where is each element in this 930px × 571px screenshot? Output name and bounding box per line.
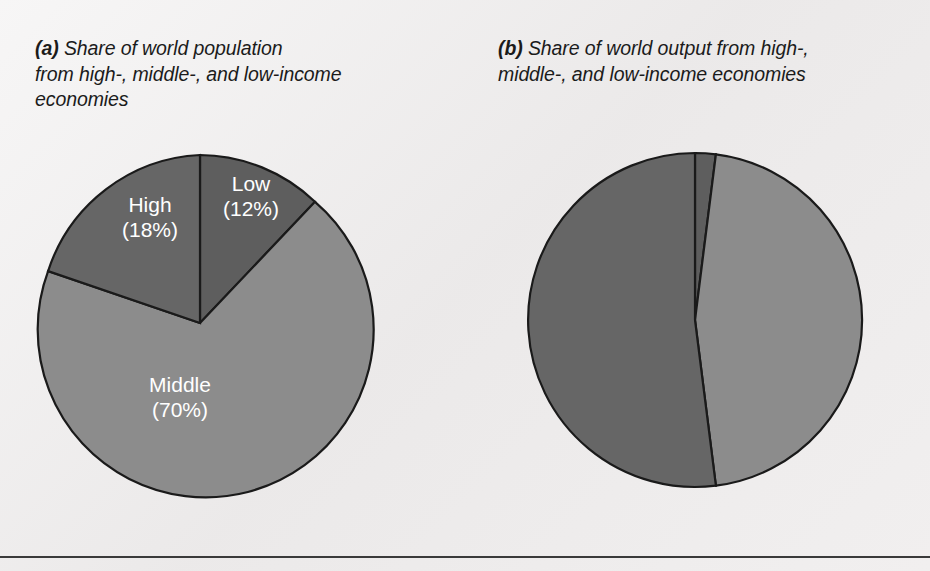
panel-b-tag: (b) (498, 37, 523, 59)
pie-a-label-low-line1: Low (232, 172, 271, 195)
panel-a: (a) Share of world population from high-… (0, 0, 470, 545)
pie-a-label-high-line2: (18%) (122, 218, 178, 241)
pie-chart-b (528, 153, 862, 487)
panel-b-title-line1: Share of world output from high-, (528, 37, 809, 59)
figure-page: (a) Share of world population from high-… (0, 0, 930, 571)
panel-a-title-line2: from high-, middle-, and low-income (35, 63, 341, 85)
pie-a-label-middle: Middle (70%) (110, 372, 250, 422)
pie-a-label-middle-line1: Middle (149, 373, 211, 396)
pie-chart-a (32, 155, 368, 491)
pie-a-label-low-line2: (12%) (223, 197, 279, 220)
panel-b-caption: (b) Share of world output from high-, mi… (498, 36, 928, 87)
panel-b-title-line2: middle-, and low-income economies (498, 63, 806, 85)
pie-a-label-high-line1: High (128, 193, 171, 216)
pie-a-label-high: High (18%) (100, 192, 200, 242)
bottom-divider-rule (0, 556, 930, 558)
panel-a-caption: (a) Share of world population from high-… (35, 36, 455, 113)
panel-b: (b) Share of world output from high-, mi… (470, 0, 930, 545)
panel-a-title-line3: economies (35, 88, 128, 110)
panel-a-tag: (a) (35, 37, 59, 59)
pie-b-svg (528, 153, 862, 487)
panel-a-title-line1: Share of world population (64, 37, 283, 59)
pie-a-label-middle-line2: (70%) (152, 398, 208, 421)
pie-a-label-low: Low (12%) (201, 171, 301, 221)
pie-b-slice-high (528, 153, 716, 487)
pie-a-svg (32, 155, 368, 491)
pie-b-slice-middle (695, 154, 862, 485)
